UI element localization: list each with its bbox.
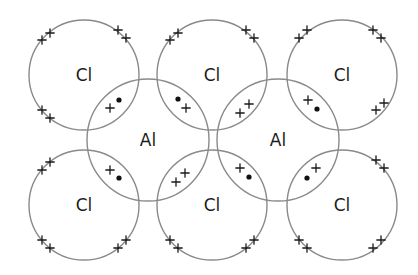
cross-electron-icon: [236, 164, 244, 172]
cross-electron-icon: [304, 96, 312, 104]
cross-electron-icon: [250, 34, 258, 42]
al2cl6-dot-cross-diagram: ClClClAlAlClClCl: [0, 0, 418, 275]
cross-electron-icon: [181, 169, 189, 177]
cross-electron-icon: [106, 104, 114, 112]
al-left-label: Al: [140, 130, 156, 150]
dot-electron-icon: [175, 96, 180, 101]
cross-electron-icon: [114, 26, 122, 34]
dot-electron-icon: [304, 175, 309, 180]
cross-electron-icon: [312, 164, 320, 172]
dot-electron-icon: [246, 174, 251, 179]
cross-electron-icon: [372, 156, 380, 164]
cross-electron-icon: [380, 164, 388, 172]
cross-electron-icon: [377, 34, 385, 42]
cross-electron-icon: [122, 34, 130, 42]
cl-top-middle-label: Cl: [204, 65, 221, 85]
cl-bottom-middle-label: Cl: [204, 195, 221, 215]
cross-electron-icon: [236, 109, 244, 117]
dot-electron-icon: [116, 175, 121, 180]
cl-top-right-label: Cl: [334, 65, 351, 85]
dot-electron-icon: [314, 106, 319, 111]
cl-top-left-label: Cl: [76, 65, 93, 85]
cross-electron-icon: [369, 244, 377, 252]
cross-electron-icon: [377, 236, 385, 244]
cross-electron-icon: [172, 178, 180, 186]
cross-electron-icon: [106, 166, 114, 174]
atom-shells: [29, 20, 397, 260]
electrons: [38, 26, 388, 252]
cl-bottom-right-label: Cl: [334, 195, 351, 215]
al-right-label: Al: [270, 130, 286, 150]
cross-electron-icon: [242, 26, 250, 34]
cross-electron-icon: [245, 100, 253, 108]
cross-electron-icon: [295, 34, 303, 42]
cl-bottom-left-label: Cl: [76, 195, 93, 215]
cross-electron-icon: [303, 26, 311, 34]
dot-electron-icon: [116, 97, 121, 102]
cross-electron-icon: [372, 106, 380, 114]
cross-electron-icon: [182, 104, 190, 112]
